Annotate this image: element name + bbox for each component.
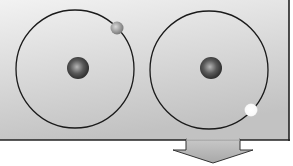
nucleus-left (67, 57, 89, 79)
panel (0, 0, 290, 141)
down-arrow-icon (173, 138, 253, 163)
atom-diagram (0, 0, 293, 166)
electron-right (245, 104, 258, 117)
electron-left (111, 22, 124, 35)
nucleus-right (200, 57, 222, 79)
